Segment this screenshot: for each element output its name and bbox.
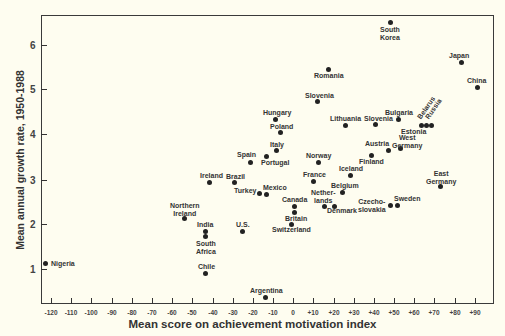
point-label: Ireland [200, 172, 223, 180]
x-tick-label: -90 [107, 309, 116, 316]
x-tick [374, 298, 375, 304]
point-label: India [197, 221, 213, 229]
point-label: Japan [449, 52, 469, 60]
point-label: Nether- lands [311, 189, 336, 204]
data-point [419, 123, 424, 128]
x-tick [475, 298, 476, 304]
y-tick [41, 89, 47, 90]
data-point [459, 60, 464, 65]
x-tick [172, 298, 173, 304]
point-label: Denmark [327, 207, 357, 215]
x-tick-label: +50 [388, 309, 399, 316]
point-label: Sweden [394, 195, 420, 203]
point-label: South Korea [380, 26, 400, 41]
point-label: Hungary [263, 109, 291, 117]
y-tick-label: 2 [30, 219, 36, 230]
data-point [475, 85, 480, 90]
point-label: Lithuania [330, 115, 361, 123]
data-point [386, 148, 391, 153]
point-label: Turkey [234, 187, 256, 195]
x-tick [434, 298, 435, 304]
point-label: Romania [314, 72, 344, 80]
point-label: Poland [270, 123, 293, 131]
x-tick [354, 298, 355, 304]
data-point [248, 160, 253, 165]
point-label: Mexico [263, 184, 287, 192]
x-tick-label: +30 [348, 309, 359, 316]
x-tick-label: -10 [268, 309, 277, 316]
point-label: Iceland [339, 165, 363, 173]
x-tick [414, 298, 415, 304]
x-tick-label: -50 [187, 309, 196, 316]
x-tick-label: -60 [167, 309, 176, 316]
x-axis-label: Mean score on achievement motivation ind… [0, 318, 505, 330]
x-tick [394, 298, 395, 304]
x-tick [192, 298, 193, 304]
y-tick [41, 224, 47, 225]
y-tick-label: 3 [30, 175, 36, 186]
point-label: Nigeria [51, 260, 75, 268]
x-tick [71, 298, 72, 304]
data-point [292, 204, 297, 209]
data-point [43, 261, 48, 266]
x-tick-label: -30 [228, 309, 237, 316]
data-point [203, 271, 208, 276]
data-point [340, 190, 345, 195]
x-tick-label: 0 [291, 309, 295, 316]
point-label: China [467, 77, 486, 85]
y-tick [41, 269, 47, 270]
x-tick-label: +60 [408, 309, 419, 316]
x-tick [91, 298, 92, 304]
point-label: Switzerland [272, 226, 311, 234]
x-tick-label: -100 [84, 309, 97, 316]
data-point [343, 123, 348, 128]
x-tick [455, 298, 456, 304]
x-tick [293, 298, 294, 304]
point-label: Spain [237, 151, 256, 159]
data-point [263, 295, 268, 300]
point-label: Czecho- slovakia [358, 198, 386, 213]
x-tick-label: -110 [65, 309, 78, 316]
x-tick-label: -20 [248, 309, 257, 316]
data-point [429, 123, 434, 128]
point-label: Canada [282, 196, 307, 204]
y-tick [41, 134, 47, 135]
x-tick-label: +40 [368, 309, 379, 316]
data-point [322, 204, 327, 209]
data-point [311, 179, 316, 184]
y-tick-label: 1 [30, 264, 36, 275]
data-point [348, 173, 353, 178]
scatter-chart: Mean annual growth rate, 1950-1988 Mean … [0, 0, 505, 336]
x-tick-label: +80 [449, 309, 460, 316]
point-label: Austria [365, 140, 389, 148]
x-tick [233, 298, 234, 304]
y-tick-label: 5 [30, 84, 36, 95]
point-label: Brazil [226, 173, 245, 181]
point-label: Portugal [261, 159, 289, 167]
x-tick [253, 298, 254, 304]
data-point [395, 203, 400, 208]
data-point [240, 229, 245, 234]
x-tick [213, 298, 214, 304]
x-tick-label: -40 [208, 309, 217, 316]
data-point [326, 67, 331, 72]
point-label: Bulgaria [385, 109, 413, 117]
x-tick-label: +70 [428, 309, 439, 316]
point-label: U.S. [236, 221, 250, 229]
data-point [369, 153, 374, 158]
point-label: East Germany [426, 170, 456, 185]
y-tick [41, 45, 47, 46]
x-tick-label: -80 [127, 309, 136, 316]
point-label: France [303, 171, 326, 179]
x-tick-label: -120 [44, 309, 57, 316]
y-tick-label: 4 [30, 129, 36, 140]
x-tick-label: +90 [469, 309, 480, 316]
y-tick-label: 6 [30, 40, 36, 51]
data-point [203, 229, 208, 234]
data-point [207, 180, 212, 185]
data-point [203, 234, 208, 239]
x-tick [152, 298, 153, 304]
x-tick [334, 298, 335, 304]
point-label: West Germany [392, 134, 422, 149]
data-point [264, 192, 269, 197]
